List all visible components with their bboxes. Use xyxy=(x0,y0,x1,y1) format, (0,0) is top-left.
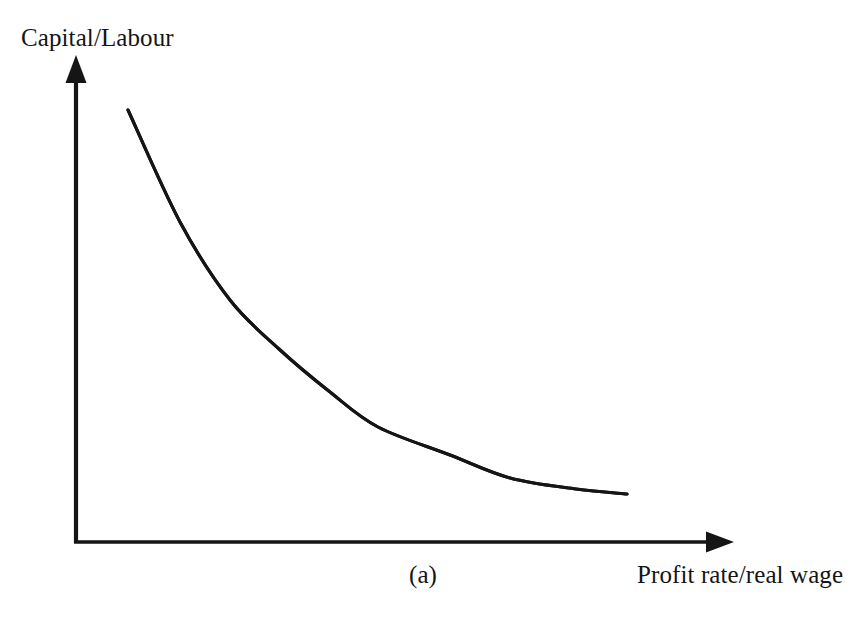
figure-root: Capital/Labour Profit rate/real wage (a) xyxy=(0,0,865,621)
x-axis-arrowhead xyxy=(706,532,734,553)
capital-intensity-curve-smooth xyxy=(128,110,627,494)
capital-intensity-curve xyxy=(128,110,627,494)
y-axis-arrowhead xyxy=(66,55,87,83)
plot-canvas xyxy=(0,0,865,621)
panel-caption: (a) xyxy=(409,562,437,588)
x-axis-label: Profit rate/real wage xyxy=(637,562,843,588)
y-axis-label: Capital/Labour xyxy=(21,25,174,51)
